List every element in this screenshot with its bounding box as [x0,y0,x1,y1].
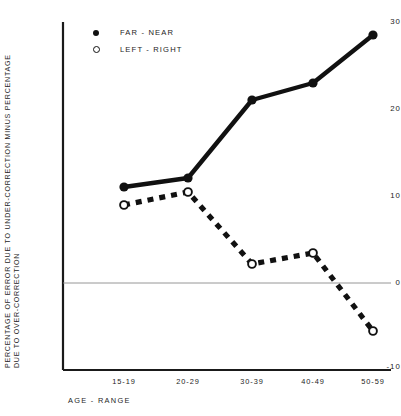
plot-area [0,0,401,416]
open-circle-icon [86,46,106,53]
data-point [184,188,192,196]
data-point [183,173,192,182]
data-point [120,201,128,209]
filled-circle-icon [86,30,106,36]
x-tick-label-50-59: 50-59 [347,377,399,386]
legend-label-left-right: LEFT - RIGHT [120,45,183,54]
data-point [248,260,256,268]
x-tick-label-20-29: 20-29 [162,377,214,386]
x-tick-label-30-39: 30-39 [226,377,278,386]
legend-item-far-near: FAR - NEAR [86,24,183,41]
chart-legend: FAR - NEAR LEFT - RIGHT [86,24,183,58]
chart-figure: PERCENTAGE OF ERROR DUE TO UNDER-CORRECT… [0,0,401,416]
legend-label-far-near: FAR - NEAR [120,28,174,37]
data-point [247,95,256,104]
x-tick-label-40-49: 40-49 [287,377,339,386]
data-point [369,327,377,335]
x-tick-label-15-19: 15-19 [98,377,150,386]
data-point [309,249,317,257]
data-point [119,182,128,191]
x-axis-caption: AGE - RANGE [68,396,131,405]
series-left-right [120,188,377,335]
data-point [308,78,317,87]
data-point [368,30,377,39]
legend-item-left-right: LEFT - RIGHT [86,41,183,58]
